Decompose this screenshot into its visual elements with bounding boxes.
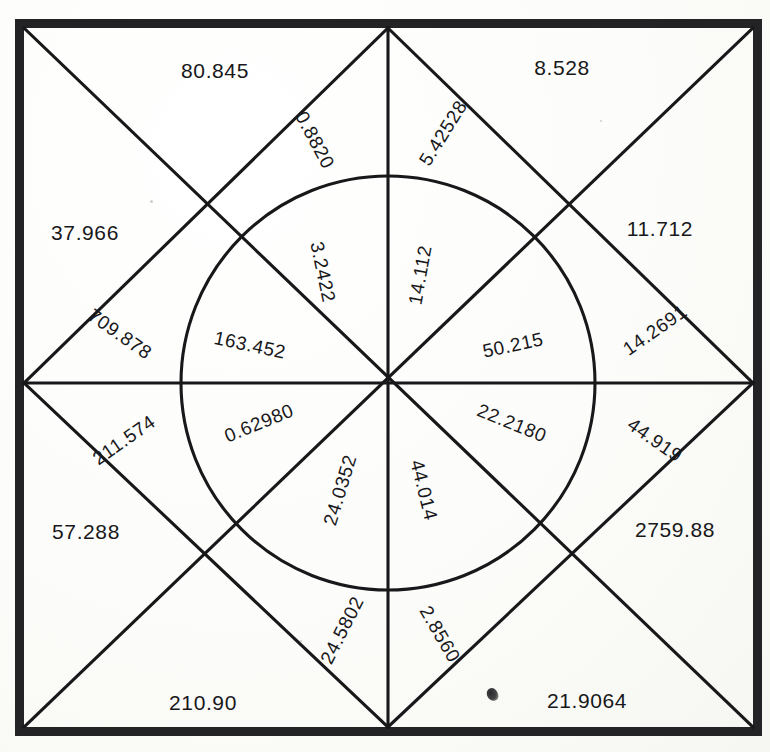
paper-speck-c: [300, 640, 302, 642]
diagram-stage: 80.8458.52837.96611.71257.2882759.88210.…: [0, 0, 770, 752]
paper-speck-b: [600, 120, 602, 122]
value-label-outer-right-upper: 11.712: [627, 218, 693, 239]
value-label-outer-bottom-left: 210.90: [169, 692, 237, 713]
star-lines: [24, 28, 753, 727]
value-label-outer-bottom-right: 21.9064: [547, 690, 627, 711]
value-label-outer-right-lower: 2759.88: [635, 519, 715, 540]
value-label-outer-top-right: 8.528: [534, 57, 590, 78]
star-circle-figure: [0, 0, 770, 752]
value-label-outer-left-upper: 37.966: [51, 222, 119, 243]
paper-speck-a: [150, 200, 153, 203]
value-label-outer-left-lower: 57.288: [52, 521, 120, 542]
value-label-outer-top-left: 80.845: [181, 60, 249, 81]
